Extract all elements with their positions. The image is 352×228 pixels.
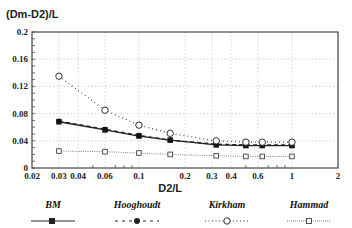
x-tick-label: 1 (290, 171, 295, 181)
dotted-open-square-marker-icon (279, 216, 339, 226)
legend-label: Kirkham (182, 199, 272, 212)
legend-item-bm: BM (8, 199, 98, 228)
legend-item-hammad: Hammad (264, 199, 352, 228)
solid-square-marker-icon (23, 216, 83, 226)
legend-label: Hooghoudt (92, 199, 182, 212)
data-point-open-square (244, 154, 249, 159)
series-line-hammad (59, 151, 292, 156)
x-tick-label: 0.03 (51, 171, 67, 181)
y-tick-label: 0.2 (17, 27, 29, 37)
data-point-filled-circle (56, 118, 61, 123)
x-tick-label: 0.2 (179, 171, 191, 181)
legend-item-hooghoudt: Hooghoudt (92, 199, 182, 228)
data-point-open-circle (213, 138, 219, 144)
chart-legend: BM Hooghoudt Kirkham Hammad (0, 199, 352, 227)
data-point-open-square (214, 153, 219, 158)
x-tick-label: 0.02 (24, 171, 40, 181)
data-point-open-circle (243, 139, 249, 145)
legend-label: BM (8, 199, 98, 212)
data-point-open-circle (56, 73, 62, 79)
y-tick-label: 0.08 (12, 109, 28, 119)
line-chart: 00.040.080.120.160.20.020.030.040.060.10… (0, 0, 352, 200)
x-axis-title: D2/L (158, 182, 182, 194)
x-tick-label: 2 (336, 171, 341, 181)
data-point-open-circle (259, 139, 265, 145)
data-point-open-circle (136, 122, 142, 128)
x-tick-label: 0.6 (252, 171, 264, 181)
data-point-open-circle (289, 139, 295, 145)
data-point-open-circle (102, 107, 108, 113)
data-point-filled-circle (136, 133, 141, 138)
x-tick-label: 0.06 (97, 171, 113, 181)
x-tick-label: 0.1 (133, 171, 145, 181)
data-point-filled-circle (168, 138, 173, 143)
data-point-open-square (260, 154, 265, 159)
data-point-open-square (168, 152, 173, 157)
y-tick-label: 0.04 (12, 136, 28, 146)
dotted-open-circle-marker-icon (197, 216, 257, 226)
y-tick-label: 0.12 (12, 81, 28, 91)
data-point-filled-circle (102, 127, 107, 132)
x-tick-label: 0.4 (225, 171, 237, 181)
legend-item-kirkham: Kirkham (182, 199, 272, 228)
x-tick-label: 0.04 (70, 171, 86, 181)
data-point-open-square (57, 149, 62, 154)
data-point-open-circle (167, 130, 173, 136)
dashed-filled-circle-marker-icon (107, 216, 167, 226)
y-tick-label: 0.16 (12, 54, 28, 64)
data-point-open-square (290, 154, 295, 159)
data-point-open-square (137, 151, 142, 156)
series-line-bm (59, 122, 292, 146)
data-point-open-square (103, 149, 108, 154)
x-tick-label: 0.3 (206, 171, 218, 181)
legend-label: Hammad (264, 199, 352, 212)
